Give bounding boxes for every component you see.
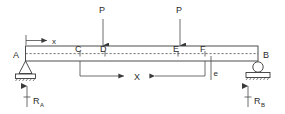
point-label-d: D [100, 44, 107, 54]
beam-body [26, 46, 259, 61]
load-p-at-d: P [99, 5, 105, 46]
load-p-at-e: P [176, 5, 182, 46]
pin-support-a [16, 61, 36, 81]
reaction-ra: R A [24, 86, 45, 108]
beam-diagram-canvas: P P x A C D E F [0, 0, 285, 114]
reaction-rb-subscript: B [261, 102, 265, 108]
reaction-ra-subscript: A [40, 102, 44, 108]
load-p-at-e-label: P [176, 5, 182, 15]
reaction-rb-label: R [254, 96, 261, 106]
reaction-rb: R B [245, 86, 266, 108]
roller-support-b [246, 62, 270, 80]
dimension-x-lower: x [26, 35, 56, 46]
beam-diagram: P P x A C D E F [0, 0, 285, 114]
point-label-b: B [263, 50, 269, 60]
dimension-e-label: e [214, 69, 219, 78]
point-label-a: A [13, 50, 19, 60]
point-label-c: C [75, 44, 82, 54]
load-p-at-d-label: P [99, 5, 105, 15]
reaction-ra-label: R [33, 96, 40, 106]
dimension-x-upper: X [80, 61, 205, 82]
point-label-f: F [200, 44, 206, 54]
point-label-e: E [173, 44, 179, 54]
dimension-x-lower-label: x [52, 37, 56, 46]
dimension-x-upper-label: X [134, 72, 140, 82]
